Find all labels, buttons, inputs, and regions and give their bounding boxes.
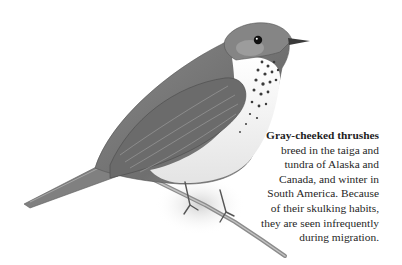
caption-line: Canada, and winter in	[229, 172, 379, 187]
eye	[254, 36, 262, 44]
caption-line: breed in the taiga and	[229, 143, 379, 158]
caption: Gray-cheeked thrushes breed in the taiga…	[229, 128, 379, 245]
caption-line: during migration.	[229, 230, 379, 245]
caption-line: tundra of Alaska and	[229, 157, 379, 172]
caption-lead: Gray-cheeked thrushes	[229, 128, 379, 143]
caption-line: they are seen infrequently	[229, 216, 379, 231]
caption-line: South America. Because	[229, 186, 379, 201]
caption-line: of their skulking habits,	[229, 201, 379, 216]
beak	[288, 38, 310, 45]
